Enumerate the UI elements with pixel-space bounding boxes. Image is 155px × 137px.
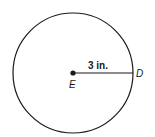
circle-diagram: 3 in. E D	[0, 0, 155, 137]
point-label: D	[136, 68, 143, 79]
center-point	[70, 70, 75, 75]
radius-label: 3 in.	[88, 60, 108, 71]
center-label: E	[69, 79, 76, 90]
